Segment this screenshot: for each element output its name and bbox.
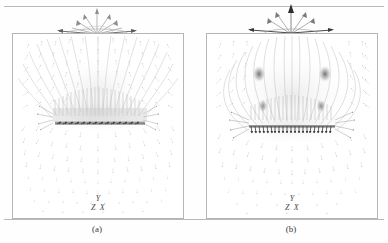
vector-field-a <box>13 34 183 218</box>
figure-page: Y ZX (a) <box>0 0 388 243</box>
axis-row-zx-b: ZX <box>207 203 377 212</box>
panel-a: Y ZX (a) <box>0 0 194 243</box>
caption-a: (a) <box>0 224 194 234</box>
axis-triad-a: Y ZX <box>13 194 183 212</box>
axis-triad-b: Y ZX <box>207 194 377 212</box>
axis-label-y-a: Y <box>13 194 183 203</box>
axis-label-x-b: X <box>294 203 299 212</box>
axis-label-z-a: Z <box>91 203 96 212</box>
panel-b: Y ZX (b) <box>194 0 388 243</box>
axis-label-y-b: Y <box>207 194 377 203</box>
vector-field-b <box>207 34 377 218</box>
plot-box-a: Y ZX <box>12 33 184 219</box>
axis-row-zx-a: ZX <box>13 203 183 212</box>
axis-label-x-a: X <box>100 203 105 212</box>
caption-b: (b) <box>194 224 388 234</box>
plot-box-b: Y ZX <box>206 33 378 219</box>
axis-label-z-b: Z <box>285 203 290 212</box>
